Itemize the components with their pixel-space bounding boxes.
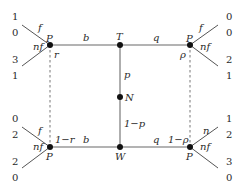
label-w: W <box>115 151 126 162</box>
belief-rho: ρ <box>179 49 186 60</box>
payoff-tl-down-2: 1 <box>12 70 18 81</box>
payoff-bl-down-1: 2 <box>12 156 18 167</box>
edge-label-p: p <box>124 69 131 80</box>
label-n: N <box>124 92 135 103</box>
payoff-tr-up-1: 0 <box>226 11 232 22</box>
payoff-bl-up-1: 0 <box>12 113 18 124</box>
action-tl-up: f <box>37 22 44 33</box>
node-w <box>117 144 123 150</box>
edge-label-q-top: q <box>153 32 159 43</box>
node-t <box>117 42 123 48</box>
payoff-br-down-2: 0 <box>226 172 232 183</box>
payoff-tl-up-2: 0 <box>12 27 18 38</box>
label-p-tl: P <box>45 33 53 44</box>
action-bl-up: f <box>37 125 44 136</box>
edge-label-b-bottom: b <box>83 134 89 145</box>
game-tree-diagram: P T P N P W P b q b q p 1−p r 1−r ρ 1−ρ … <box>0 0 244 189</box>
edge-label-1-minus-p: 1−p <box>124 118 146 129</box>
payoff-tr-down-2: 1 <box>226 70 232 81</box>
action-br-down: nf <box>200 141 212 152</box>
node-n <box>117 94 123 100</box>
payoff-tl-up-1: 1 <box>12 11 18 22</box>
action-tr-up: f <box>198 22 205 33</box>
action-br-up: n <box>203 125 209 136</box>
payoff-br-up-2: 2 <box>226 129 232 140</box>
label-p-br: P <box>185 151 193 162</box>
payoff-tr-down-1: 2 <box>226 54 232 65</box>
payoff-tl-down-1: 3 <box>12 54 18 65</box>
belief-r: r <box>54 49 60 60</box>
label-t: T <box>116 31 124 42</box>
belief-1-minus-r: 1−r <box>55 134 76 145</box>
action-tr-down: nf <box>200 41 212 52</box>
edge-label-q-bottom: q <box>153 134 159 145</box>
payoff-bl-up-2: 2 <box>12 129 18 140</box>
node-p-bottom-left <box>47 144 53 150</box>
payoff-bl-down-2: 0 <box>12 172 18 183</box>
edge-label-b-top: b <box>83 32 89 43</box>
label-p-tr: P <box>185 33 193 44</box>
payoff-br-up-1: 1 <box>226 113 232 124</box>
payoff-br-down-1: 3 <box>226 156 232 167</box>
label-p-bl: P <box>45 151 53 162</box>
belief-1-minus-rho: 1−ρ <box>168 134 189 145</box>
payoff-tr-up-2: 0 <box>226 27 232 38</box>
